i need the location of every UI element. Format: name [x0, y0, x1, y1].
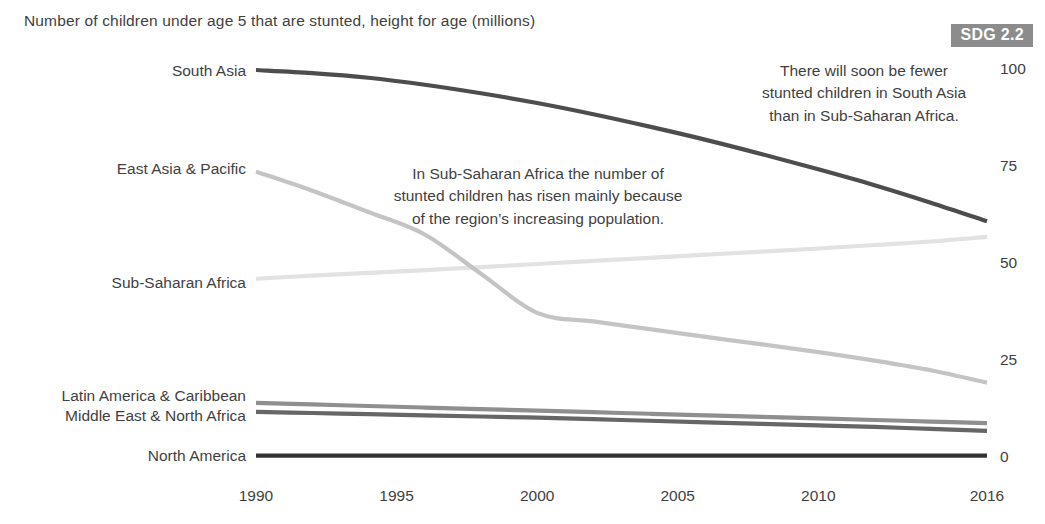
series-line-sub-saharan-africa: [256, 237, 987, 279]
series-label-north-america: North America: [148, 446, 246, 465]
series-label-east-asia-pacific: East Asia & Pacific: [117, 159, 246, 178]
x-axis-tick-2010: 2010: [778, 487, 858, 505]
series-line-east-asia-pacific: [256, 172, 987, 383]
y-axis-tick-50: 50: [1000, 254, 1017, 272]
x-axis-tick-2000: 2000: [497, 487, 577, 505]
x-axis-tick-1990: 1990: [216, 487, 296, 505]
series-label-middle-east-north-africa: Middle East & North Africa: [65, 406, 246, 425]
series-label-south-asia: South Asia: [172, 61, 246, 80]
series-line-south-asia: [256, 70, 987, 221]
y-axis-tick-25: 25: [1000, 351, 1017, 369]
series-label-sub-saharan-africa: Sub-Saharan Africa: [112, 273, 246, 292]
x-axis-tick-1995: 1995: [357, 487, 437, 505]
x-axis-tick-2005: 2005: [638, 487, 718, 505]
chart-container: Number of children under age 5 that are …: [0, 0, 1045, 524]
y-axis-tick-0: 0: [1000, 448, 1009, 466]
y-axis-tick-75: 75: [1000, 157, 1017, 175]
y-axis-tick-100: 100: [1000, 60, 1026, 78]
series-label-latin-america-caribbean: Latin America & Caribbean: [62, 386, 246, 405]
x-axis-tick-2016: 2016: [947, 487, 1027, 505]
